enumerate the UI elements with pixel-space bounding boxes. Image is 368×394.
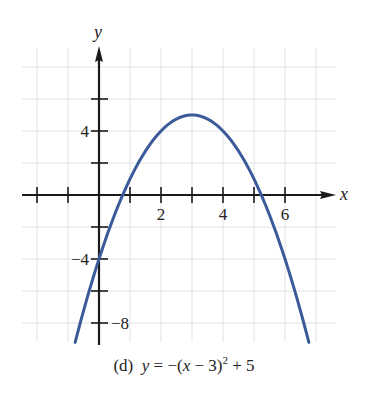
svg-text:2: 2 — [157, 205, 166, 224]
caption-label: (d) — [113, 356, 133, 375]
caption-rhs-pre: = −( — [154, 356, 183, 375]
svg-text:6: 6 — [281, 205, 290, 224]
caption-mid: − 3) — [190, 356, 222, 375]
chart-canvas: 2464−4−8 x y — [0, 0, 368, 394]
y-axis-label: y — [92, 22, 102, 42]
svg-text:4: 4 — [81, 122, 90, 141]
caption-post: + 5 — [228, 356, 255, 375]
svg-text:4: 4 — [219, 205, 228, 224]
svg-text:−8: −8 — [111, 314, 129, 333]
figure-caption: (d) y = −(x − 3)2 + 5 — [0, 354, 368, 376]
axes — [22, 46, 336, 345]
x-axis-label: x — [339, 184, 348, 204]
svg-text:−4: −4 — [71, 250, 90, 269]
caption-lhs: y — [142, 356, 150, 375]
